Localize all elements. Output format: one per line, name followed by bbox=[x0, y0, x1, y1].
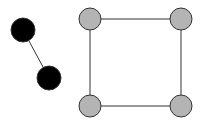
node-g1 bbox=[79, 8, 101, 30]
graph-diagram bbox=[0, 0, 204, 124]
nodes bbox=[11, 8, 192, 117]
node-b1 bbox=[11, 18, 35, 42]
node-g4 bbox=[170, 95, 192, 117]
node-g3 bbox=[79, 95, 101, 117]
node-b2 bbox=[37, 66, 61, 90]
node-g2 bbox=[170, 8, 192, 30]
edges bbox=[23, 19, 181, 106]
